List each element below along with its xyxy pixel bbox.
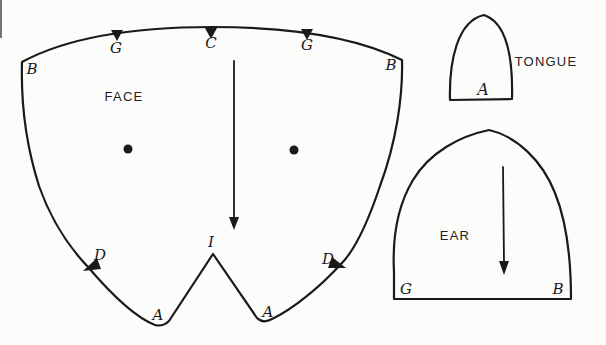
face-piece-name: FACE — [105, 89, 144, 104]
tongue-piece-name: TONGUE — [515, 54, 578, 69]
tongue-point-a: A — [475, 80, 489, 99]
grain-arrow-ear-icon — [499, 167, 509, 275]
pattern-sheet: FACE B G C G B D I D A A A TONGUE E — [0, 0, 606, 345]
face-point-d-left: D — [93, 246, 106, 264]
ear-outline — [394, 130, 571, 299]
face-outline — [22, 27, 402, 326]
scan-edge-artifact — [0, 0, 2, 38]
face-point-a-right: A — [261, 303, 274, 321]
tongue-piece: A TONGUE — [450, 15, 577, 100]
ear-point-b: B — [551, 280, 563, 298]
ear-piece-name: EAR — [440, 228, 470, 243]
face-point-i: I — [207, 233, 215, 251]
face-point-b-right: B — [384, 56, 396, 74]
eye-dot-right-icon — [290, 146, 299, 155]
ear-point-g: G — [400, 280, 412, 298]
eye-dot-left-icon — [124, 145, 133, 154]
pattern-diagram: FACE B G C G B D I D A A A TONGUE E — [0, 0, 606, 345]
face-point-b-left: B — [25, 60, 37, 78]
face-piece: FACE B G C G B D I D A A — [22, 27, 402, 326]
face-point-c: C — [205, 34, 217, 52]
face-point-d-right: D — [321, 250, 334, 268]
grain-arrow-face-icon — [229, 61, 239, 230]
face-point-a-left: A — [151, 306, 164, 324]
face-point-g-right: G — [301, 36, 313, 54]
face-point-g-left: G — [110, 39, 122, 57]
ear-piece: EAR G B — [394, 130, 571, 299]
